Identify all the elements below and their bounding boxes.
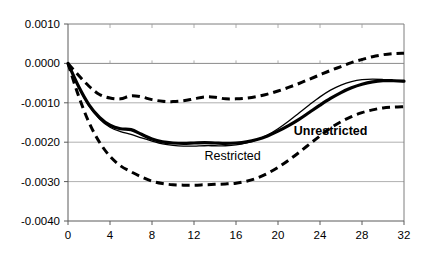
y-axis-tick-label: -0.0040 <box>21 215 60 227</box>
annotation-label-restricted: Restricted <box>205 149 261 163</box>
x-axis-tick-label: 8 <box>149 229 155 241</box>
y-axis-tick-label: -0.0020 <box>21 136 60 148</box>
y-axis-tick-label: -0.0030 <box>21 176 60 188</box>
x-axis-tick-label: 16 <box>230 229 243 241</box>
y-axis-tick-label: 0.0000 <box>25 57 60 69</box>
x-axis-tick-label: 20 <box>272 229 285 241</box>
x-axis-tick-label: 4 <box>107 229 114 241</box>
y-axis-tick-label: 0.0010 <box>25 18 60 30</box>
chart-container: 0.00100.0000-0.0010-0.0020-0.0030-0.0040… <box>0 0 430 256</box>
x-axis-tick-label: 32 <box>398 229 411 241</box>
impulse-response-chart: 0.00100.0000-0.0010-0.0020-0.0030-0.0040… <box>0 0 430 256</box>
x-axis-tick-label: 12 <box>188 229 201 241</box>
x-axis-tick-label: 0 <box>65 229 71 241</box>
annotation-label-unrestricted: Unrestricted <box>294 124 368 138</box>
y-axis-tick-label: -0.0010 <box>21 97 60 109</box>
x-axis-tick-label: 28 <box>356 229 369 241</box>
x-axis-tick-label: 24 <box>314 229 327 241</box>
